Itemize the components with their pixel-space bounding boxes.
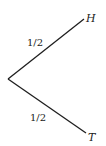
probability-label-tails: 1/2 bbox=[30, 112, 46, 123]
branch-line-tails bbox=[8, 79, 86, 133]
probability-label-heads: 1/2 bbox=[27, 37, 43, 48]
probability-tree-diagram: 1/2 H 1/2 T bbox=[0, 0, 106, 146]
outcome-label-heads: H bbox=[85, 12, 96, 25]
branch-line-heads bbox=[8, 19, 84, 79]
outcome-label-tails: T bbox=[88, 131, 97, 144]
